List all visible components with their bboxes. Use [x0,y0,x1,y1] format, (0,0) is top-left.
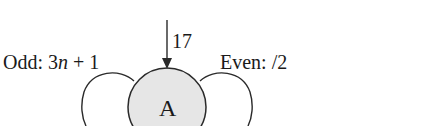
entry-arrow-head [162,58,172,69]
state-a-label: A [159,96,176,120]
odd-label-suffix: + 1 [68,51,99,73]
entry-value-label: 17 [172,31,192,51]
odd-transition-label: Odd: 3n + 1 [3,52,99,72]
state-diagram: 17 Odd: 3n + 1 Even: /2 A [0,0,432,126]
odd-label-variable: n [58,51,68,73]
odd-label-prefix: Odd: 3 [3,51,58,73]
even-transition-label: Even: /2 [220,52,287,72]
even-self-loop [200,73,252,126]
odd-self-loop [82,73,134,126]
